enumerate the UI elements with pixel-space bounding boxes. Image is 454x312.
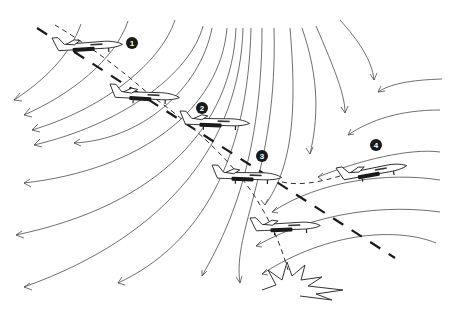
actual-flight-path [55,25,288,270]
impact-burst-icon [262,262,343,300]
marker-1: 1 [126,37,138,49]
svg-text:4: 4 [374,141,379,150]
svg-text:1: 1 [130,39,135,48]
aircraft-position-4 [211,165,282,185]
microburst-diagram: 1 2 3 4 [0,0,454,312]
marker-3: 3 [256,150,268,162]
diagram-canvas: 1 2 3 4 [0,0,454,312]
aircraft-position-5 [336,156,408,186]
go-around-path [282,176,340,184]
marker-4: 4 [370,139,382,151]
aircraft-position-1 [52,34,123,56]
intended-glide-path [37,28,395,258]
airflow-lines-left [14,20,293,287]
marker-2: 2 [196,102,208,114]
airflow-lines-right [256,20,442,274]
svg-text:3: 3 [260,152,265,161]
svg-text:2: 2 [200,104,205,113]
aircraft-position-6 [250,216,321,236]
aircraft-position-3 [179,111,250,131]
